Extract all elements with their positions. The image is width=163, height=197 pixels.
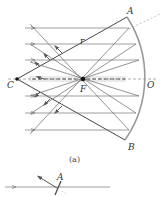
figure-caption: (a) [69,155,80,164]
label-r: r [80,36,85,46]
label-o: O [147,80,155,90]
mirror-diagram: A B C F O r (a) A [0,0,163,197]
normal-extension [129,14,160,29]
mirror-arc [125,17,145,140]
label-b: B [127,142,135,152]
inset-reflected-arrow [39,177,57,188]
label-a: A [126,6,134,16]
center-point [15,77,19,81]
label-c: C [7,80,14,90]
inset-label-a: A [56,172,64,182]
focal-point [81,77,85,81]
label-f: F [79,84,87,94]
inset-diagram: A [5,172,110,195]
inset-mirror [55,181,61,195]
